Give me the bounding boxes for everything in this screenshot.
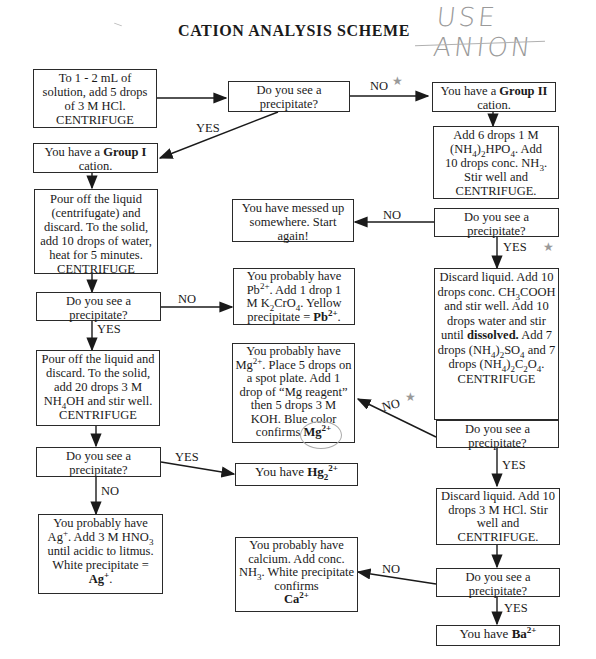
group-ii-step3-box: Discard liquid. Add 10 drops 3 M HCl. St… [436, 488, 560, 545]
group-i-step2-box: Pour off the liquid and discard. To the … [36, 350, 160, 426]
mercury-result-box: You have Hg22+ [235, 463, 358, 486]
handwritten-circle [300, 421, 342, 449]
barium-result-box: You have Ba2+ [436, 625, 560, 646]
question-box-group-ii-2: Do you see a precipitate? [436, 420, 559, 448]
group-ii-step2-box: Discard liquid. Add 10 drops conc. CH3CO… [434, 268, 559, 420]
edge-label-no: NO [380, 396, 401, 415]
start-box: To 1 - 2 mL of solution, add 5 drops of … [33, 69, 157, 128]
edge-label-yes: YES [502, 458, 526, 473]
star-annotation: ★ [392, 74, 403, 89]
question-box-initial: Do you see a precipitate? [228, 81, 350, 112]
calcium-result-box: You probably have calcium. Add conc. NH3… [235, 537, 358, 612]
edge-label-no: NO [370, 79, 388, 94]
silver-result-box: You probably have Ag+. Add 3 M HNO3 unti… [38, 514, 163, 594]
edge-label-yes: YES [97, 322, 121, 337]
handwritten-note: USE ANION [432, 2, 588, 62]
question-box-group-ii-3: Do you see a precipitate? [436, 568, 560, 597]
group-i-box: You have a Group I cation. [33, 143, 158, 173]
question-box-group-i-1: Do you see a precipitate? [36, 292, 161, 321]
edge-label-no: NO [383, 208, 401, 223]
question-box-group-ii-1: Do you see a precipitate? [434, 208, 559, 237]
edge-label-yes: YES [175, 450, 199, 465]
group-i-step1-box: Pour off the liquid (centrifugate) and d… [34, 189, 158, 274]
edge-label-yes: YES [196, 121, 220, 136]
edge-label-no: NO [101, 484, 119, 499]
question-box-group-i-2: Do you see a precipitate? [36, 447, 161, 477]
lead-result-box: You probably have Pb2+. Add 1 drop 1 M K… [233, 268, 355, 325]
edge-label-yes: YES [503, 240, 527, 255]
page-title: CATION ANALYSIS SCHEME [178, 22, 410, 40]
group-ii-step1-box: Add 6 drops 1 M (NH4)2HPO4. Add 10 drops… [433, 126, 559, 199]
stray-pen-mark [114, 23, 122, 27]
edge-label-yes: YES [504, 601, 528, 616]
edge-label-no: NO [178, 292, 196, 307]
messed-up-box: You have messed up somewhere. Start agai… [232, 199, 354, 242]
group-ii-box: You have a Group II cation. [432, 82, 556, 112]
star-annotation: ★ [543, 240, 554, 255]
edge-label-no: NO [382, 562, 400, 577]
star-annotation: ★ [405, 390, 416, 405]
